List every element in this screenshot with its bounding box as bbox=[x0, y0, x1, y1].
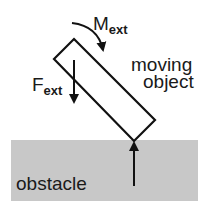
obstacle: obstacle bbox=[11, 140, 198, 201]
external-force: Fext bbox=[32, 60, 74, 102]
diagram-canvas: obstacle Mext Fext moving object bbox=[0, 0, 206, 209]
moving-object-label: moving object bbox=[131, 54, 194, 92]
moment-label: Mext bbox=[93, 13, 128, 37]
obstacle-label: obstacle bbox=[16, 173, 87, 194]
force-label: Fext bbox=[32, 74, 63, 98]
moving-object-label-line2: object bbox=[143, 71, 194, 92]
